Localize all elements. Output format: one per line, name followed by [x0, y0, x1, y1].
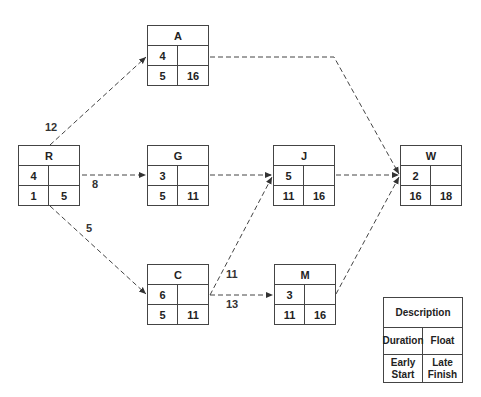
node-w: W 2 16 18 — [400, 145, 462, 206]
early-start-cell: 5 — [148, 66, 178, 86]
node-name: W — [401, 146, 461, 166]
early-start-cell: 5 — [148, 186, 178, 206]
legend-late-finish: Late Finish — [423, 355, 462, 382]
node-j: J 5 11 16 — [273, 145, 335, 206]
late-finish-cell: 16 — [178, 66, 208, 86]
late-finish-cell: 11 — [178, 305, 208, 325]
late-finish-cell: 18 — [431, 186, 461, 206]
edge-label-r-a: 12 — [45, 121, 57, 133]
float-cell — [305, 285, 335, 304]
node-name: J — [274, 146, 334, 166]
float-cell — [178, 46, 208, 65]
node-name: R — [19, 146, 79, 166]
duration-cell: 5 — [274, 166, 304, 185]
node-name: C — [148, 265, 208, 285]
duration-cell: 4 — [19, 166, 49, 185]
node-c: C 6 5 11 — [147, 264, 209, 325]
duration-cell: 3 — [275, 285, 305, 304]
legend-early-start: Early Start — [384, 355, 423, 382]
late-finish-cell: 16 — [305, 305, 335, 325]
node-a: A 4 5 16 — [147, 25, 209, 86]
duration-cell: 2 — [401, 166, 431, 185]
node-m: M 3 11 16 — [274, 264, 336, 325]
node-name: A — [148, 26, 208, 46]
early-start-cell: 11 — [274, 186, 304, 206]
node-g: G 3 5 11 — [147, 145, 209, 206]
float-cell — [431, 166, 461, 185]
edge-r-a — [50, 57, 146, 145]
duration-cell: 6 — [148, 285, 178, 304]
float-cell — [178, 166, 208, 185]
node-name: G — [148, 146, 208, 166]
float-cell — [49, 166, 79, 185]
edge-r-c — [50, 206, 146, 294]
legend: Description Duration Float Early Start L… — [383, 297, 463, 383]
edge-label-r-c: 5 — [86, 222, 92, 234]
legend-duration: Duration — [384, 328, 423, 354]
late-finish-cell: 11 — [178, 186, 208, 206]
late-finish-cell: 5 — [49, 186, 79, 206]
legend-float: Float — [423, 328, 462, 354]
early-start-cell: 11 — [275, 305, 305, 325]
early-start-cell: 16 — [401, 186, 431, 206]
duration-cell: 4 — [148, 46, 178, 65]
edge-m-w — [336, 177, 399, 294]
early-start-cell: 1 — [19, 186, 49, 206]
early-start-cell: 5 — [148, 305, 178, 325]
edge-label-r-g: 8 — [92, 178, 98, 190]
float-cell — [304, 166, 334, 185]
duration-cell: 3 — [148, 166, 178, 185]
node-name: M — [275, 265, 335, 285]
legend-title: Description — [384, 298, 462, 328]
node-r: R 4 1 5 — [18, 145, 80, 206]
edge-c-j — [210, 177, 272, 295]
late-finish-cell: 16 — [304, 186, 334, 206]
edge-label-c-m: 13 — [226, 298, 238, 310]
edge-label-c-j: 11 — [226, 268, 238, 280]
float-cell — [178, 285, 208, 304]
